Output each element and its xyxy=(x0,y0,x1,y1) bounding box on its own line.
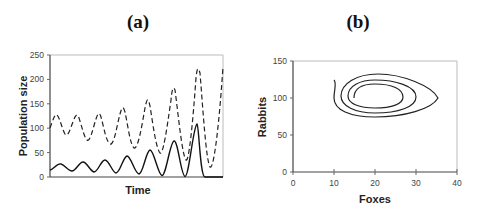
y-tick-label: 200 xyxy=(30,74,44,84)
x-axis-label: Time xyxy=(125,184,150,196)
x-tick-label: 10 xyxy=(329,178,339,188)
y-axis-label: Rabbits xyxy=(256,97,268,137)
figure: (a) 0 50 100 150 200 250 Population size… xyxy=(0,0,477,215)
x-tick-label: 30 xyxy=(411,178,421,188)
series-solid xyxy=(50,124,223,177)
panel-a: (a) 0 50 100 150 200 250 Population size… xyxy=(17,11,223,196)
x-tick-label: 0 xyxy=(291,178,296,188)
y-tick-label: 100 xyxy=(30,123,44,133)
y-tick-label: 150 xyxy=(273,56,287,66)
x-tick-label: 20 xyxy=(370,178,380,188)
y-tick-label: 250 xyxy=(30,50,44,60)
y-tick-label: 50 xyxy=(35,148,45,158)
y-tick-label: 50 xyxy=(278,130,288,140)
y-ticks: 0 50 100 150 200 250 xyxy=(30,50,50,182)
y-axis-label: Population size xyxy=(17,76,29,157)
phase-trajectory xyxy=(334,74,438,117)
panel-b: (b) 0 50 100 150 0 10 20 30 40 Rabb xyxy=(256,11,462,205)
y-tick-label: 100 xyxy=(273,93,287,103)
x-axis-label: Foxes xyxy=(359,193,391,205)
x-tick-label: 40 xyxy=(452,178,462,188)
y-tick-label: 0 xyxy=(282,167,287,177)
y-tick-label: 0 xyxy=(39,172,44,182)
y-tick-label: 150 xyxy=(30,99,44,109)
series-dashed xyxy=(50,67,223,167)
y-ticks: 0 50 100 150 xyxy=(273,56,293,177)
panel-b-title: (b) xyxy=(346,11,369,33)
panel-a-title: (a) xyxy=(127,11,149,33)
